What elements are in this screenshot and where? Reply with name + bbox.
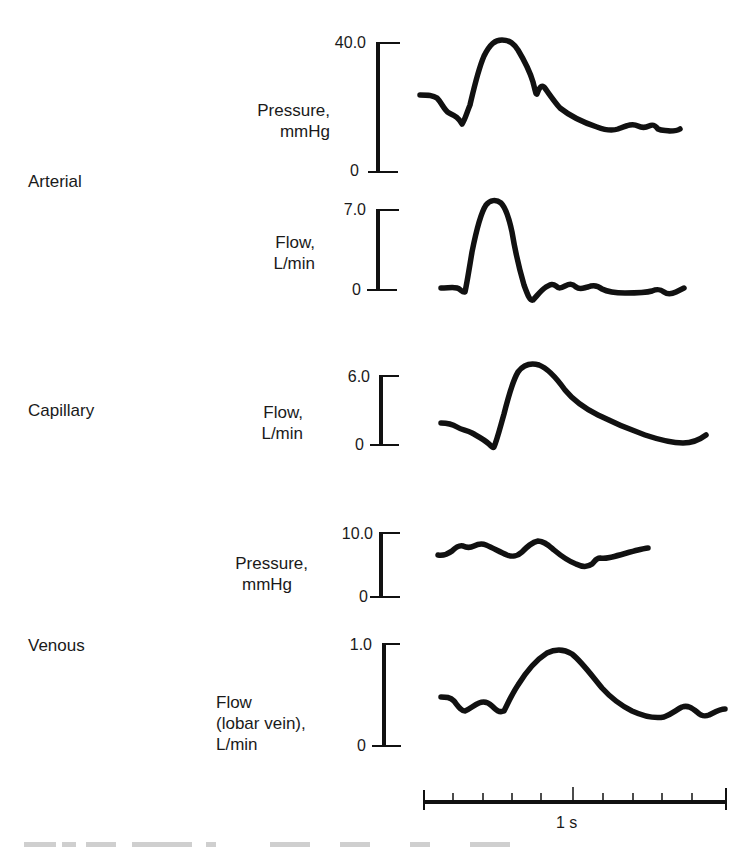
waveform-plot <box>0 0 756 848</box>
scale-bar-arterial-flow <box>367 210 399 290</box>
trace-arterial-flow <box>441 201 684 301</box>
scale-bar-venous-flow <box>372 644 401 746</box>
scale-bar-arterial-pressure <box>368 43 400 172</box>
time-scale-bar <box>424 787 726 810</box>
trace-venous-pressure <box>438 541 648 566</box>
trace-capillary-flow <box>441 364 706 447</box>
trace-venous-flow <box>441 650 725 718</box>
scale-bar-venous-pressure <box>370 533 400 597</box>
time-scale-label: 1 s <box>556 814 577 832</box>
trace-arterial-pressure <box>420 40 680 131</box>
scale-bar-capillary-flow <box>370 376 399 445</box>
caption-fragment <box>24 842 510 847</box>
